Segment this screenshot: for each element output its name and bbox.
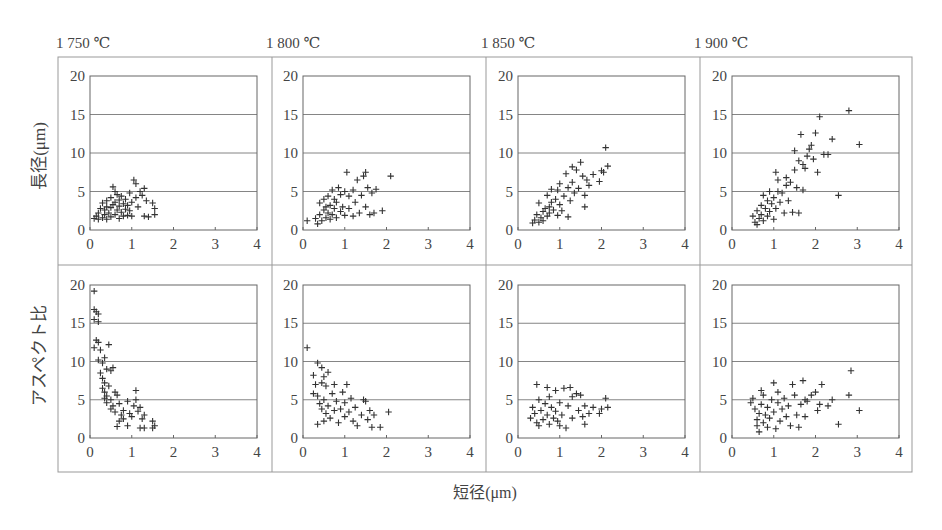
plus-marker-icon xyxy=(319,364,325,370)
plus-marker-icon xyxy=(754,423,760,429)
x-tick-label: 0 xyxy=(514,236,522,252)
plus-marker-icon xyxy=(569,164,575,170)
x-tick-label: 1 xyxy=(556,236,564,252)
plus-marker-icon xyxy=(758,202,764,208)
x-tick-label: 0 xyxy=(728,444,736,460)
plus-marker-icon xyxy=(346,193,352,199)
plus-marker-icon xyxy=(141,185,147,191)
plus-marker-icon xyxy=(542,400,548,406)
plus-marker-icon xyxy=(354,177,360,183)
plus-marker-icon xyxy=(552,408,558,414)
plus-marker-icon xyxy=(791,167,797,173)
plus-marker-icon xyxy=(106,383,112,389)
y-tick-label: 10 xyxy=(498,354,513,370)
plus-marker-icon xyxy=(104,366,110,372)
plus-marker-icon xyxy=(779,190,785,196)
plus-marker-icon xyxy=(758,401,764,407)
plus-marker-icon xyxy=(825,151,831,157)
plus-marker-icon xyxy=(777,199,783,205)
y-tick-label: 0 xyxy=(720,430,728,446)
plus-marker-icon xyxy=(814,407,820,413)
plus-marker-icon xyxy=(575,407,581,413)
plus-marker-icon xyxy=(559,208,565,214)
x-tick-label: 1 xyxy=(770,444,778,460)
y-tick-label: 20 xyxy=(283,277,298,293)
plus-marker-icon xyxy=(779,406,785,412)
plus-marker-icon xyxy=(145,214,151,220)
x-tick-label: 1 xyxy=(128,444,136,460)
plus-marker-icon xyxy=(569,415,575,421)
scatter-panel-row1-col2: 0510152001234 xyxy=(283,68,474,252)
y-tick-label: 15 xyxy=(498,315,513,331)
plus-marker-icon xyxy=(605,404,611,410)
plus-marker-icon xyxy=(152,211,158,217)
row-y-labels: 長径(μm) アスペクト比 xyxy=(30,122,49,405)
plus-marker-icon xyxy=(791,392,797,398)
plus-marker-icon xyxy=(369,424,375,430)
plus-marker-icon xyxy=(352,404,358,410)
plus-marker-icon xyxy=(856,407,862,413)
plus-marker-icon xyxy=(327,202,333,208)
plus-marker-icon xyxy=(756,429,762,435)
plus-marker-icon xyxy=(529,404,535,410)
plus-marker-icon xyxy=(314,360,320,366)
plus-marker-icon xyxy=(95,357,101,363)
x-tick-label: 4 xyxy=(681,236,689,252)
plus-marker-icon xyxy=(323,383,329,389)
x-tick-label: 4 xyxy=(466,236,474,252)
plus-marker-icon xyxy=(856,141,862,147)
plus-marker-icon xyxy=(796,424,802,430)
plus-marker-icon xyxy=(385,409,391,415)
plus-marker-icon xyxy=(325,193,331,199)
plus-marker-icon xyxy=(346,205,352,211)
y-tick-label: 5 xyxy=(720,392,728,408)
y-tick-label: 0 xyxy=(506,222,514,238)
y-tick-label: 20 xyxy=(712,68,727,84)
plus-marker-icon xyxy=(846,107,852,113)
y-tick-label: 15 xyxy=(498,107,513,123)
plus-marker-icon xyxy=(321,196,327,202)
y-tick-label: 20 xyxy=(70,68,85,84)
plus-marker-icon xyxy=(569,179,575,185)
plus-marker-icon xyxy=(766,415,772,421)
plus-marker-icon xyxy=(586,410,592,416)
plus-marker-icon xyxy=(538,407,544,413)
plus-marker-icon xyxy=(354,423,360,429)
y-tick-label: 5 xyxy=(78,184,86,200)
plus-marker-icon xyxy=(565,214,571,220)
plus-marker-icon xyxy=(135,204,141,210)
plus-marker-icon xyxy=(577,159,583,165)
plus-marker-icon xyxy=(312,381,318,387)
plus-marker-icon xyxy=(602,144,608,150)
y-tick-label: 0 xyxy=(78,222,86,238)
plus-marker-icon xyxy=(771,194,777,200)
plus-marker-icon xyxy=(141,425,147,431)
data-points xyxy=(748,367,863,435)
plus-marker-icon xyxy=(814,169,820,175)
plus-marker-icon xyxy=(106,341,112,347)
plus-marker-icon xyxy=(141,213,147,219)
plus-marker-icon xyxy=(804,153,810,159)
plus-marker-icon xyxy=(565,184,571,190)
plus-marker-icon xyxy=(771,409,777,415)
data-points xyxy=(91,177,158,223)
plus-marker-icon xyxy=(775,177,781,183)
y-tick-label: 15 xyxy=(70,107,85,123)
plus-marker-icon xyxy=(337,406,343,412)
plus-marker-icon xyxy=(781,210,787,216)
plus-marker-icon xyxy=(783,182,789,188)
plus-marker-icon xyxy=(750,213,756,219)
plus-marker-icon xyxy=(781,395,787,401)
plus-marker-icon xyxy=(544,412,550,418)
y-tick-label: 20 xyxy=(70,277,85,293)
plus-marker-icon xyxy=(331,381,337,387)
plus-marker-icon xyxy=(787,423,793,429)
plus-marker-icon xyxy=(766,188,772,194)
y-tick-label: 20 xyxy=(712,277,727,293)
plus-marker-icon xyxy=(800,377,806,383)
y-tick-label: 10 xyxy=(70,145,85,161)
y-tick-label: 0 xyxy=(78,430,86,446)
y-tick-label: 5 xyxy=(291,392,299,408)
plus-marker-icon xyxy=(124,398,130,404)
x-tick-label: 3 xyxy=(425,236,433,252)
